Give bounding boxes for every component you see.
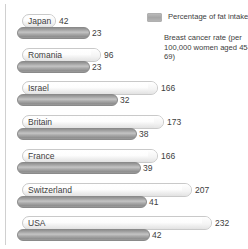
country-label: Britain bbox=[28, 115, 52, 129]
bar-row: France16639 bbox=[0, 149, 248, 183]
country-label: Romania bbox=[28, 48, 62, 62]
value-label-cancer-rate: 207 bbox=[195, 183, 209, 197]
value-label-fat-intake: 38 bbox=[139, 128, 148, 140]
bar-fat-intake bbox=[17, 128, 137, 140]
value-label-cancer-rate: 96 bbox=[104, 48, 113, 62]
bar-fat-intake bbox=[17, 94, 118, 106]
bar-fat-intake bbox=[17, 196, 147, 208]
value-label-fat-intake: 42 bbox=[152, 229, 161, 241]
value-label-fat-intake: 41 bbox=[149, 196, 158, 208]
value-label-cancer-rate: 173 bbox=[167, 115, 181, 129]
value-label-fat-intake: 32 bbox=[120, 94, 129, 106]
bar-fat-intake bbox=[17, 162, 141, 174]
country-label: Israel bbox=[28, 81, 49, 95]
bar-row: Switzerland20741 bbox=[0, 183, 248, 217]
bar-fat-intake bbox=[17, 61, 90, 73]
bar-fat-intake bbox=[17, 27, 90, 39]
value-label-fat-intake: 39 bbox=[143, 162, 152, 174]
bar-row: USA23242 bbox=[0, 216, 248, 249]
value-label-fat-intake: 23 bbox=[92, 61, 101, 73]
bar-fat-intake bbox=[17, 229, 150, 241]
country-label: Switzerland bbox=[28, 183, 72, 197]
country-label: France bbox=[28, 149, 54, 163]
value-label-cancer-rate: 166 bbox=[161, 149, 175, 163]
bar-cancer-rate bbox=[22, 216, 212, 230]
legend-label-fat-intake: Percentage of fat intake bbox=[168, 12, 248, 21]
value-label-cancer-rate: 42 bbox=[59, 14, 68, 28]
bar-row: Israel16632 bbox=[0, 81, 248, 115]
country-label: Japan bbox=[28, 14, 51, 28]
value-label-cancer-rate: 232 bbox=[215, 216, 229, 230]
bar-row: Britain17338 bbox=[0, 115, 248, 149]
legend-swatch-fat-intake bbox=[147, 13, 162, 22]
value-label-cancer-rate: 166 bbox=[161, 81, 175, 95]
chart-canvas: Japan4223Romania9623Israel16632Britain17… bbox=[0, 0, 248, 249]
legend-label-cancer-rate: Breast cancer rate (per 100,000 women ag… bbox=[164, 33, 248, 62]
country-label: USA bbox=[28, 216, 45, 230]
value-label-fat-intake: 23 bbox=[92, 27, 101, 39]
